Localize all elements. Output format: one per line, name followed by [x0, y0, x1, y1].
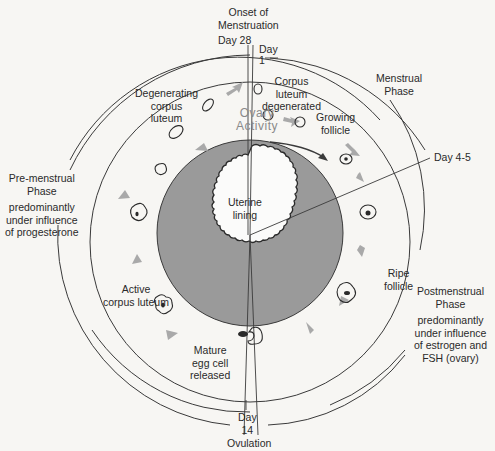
day28-label: Day 28	[218, 34, 251, 47]
ripe-follicle-label: Ripe follicle	[384, 267, 413, 292]
degenerating-glyph-2	[167, 123, 186, 141]
ovary-activity-label: Ovary Activity	[236, 107, 278, 133]
corpus-glyph-upper	[155, 163, 167, 174]
corpus-glyph-left	[131, 203, 148, 220]
arrow-8	[166, 330, 178, 340]
arrow-2	[283, 117, 300, 127]
outer-ring-right	[330, 350, 405, 405]
arrow-1	[226, 82, 243, 96]
day14-label: Day 14	[238, 411, 257, 436]
mature-egg-cell	[238, 331, 248, 337]
degenerating-corpus-luteum-label: Degenerating corpus luteum	[135, 87, 198, 125]
arrow-4	[356, 172, 364, 182]
nucleus-ripe	[344, 291, 350, 295]
premenstrual-phase-label: Pre-menstrual Phase predominantly under …	[5, 172, 79, 239]
degenerating-glyph-1	[200, 97, 215, 113]
menstrual-phase-label: Menstrual Phase	[376, 72, 422, 97]
menstrual-cycle-diagram: Onset of Menstruation Day 28 Day 1 Corpu…	[0, 0, 495, 451]
postmenstrual-right-arc	[268, 355, 405, 425]
corpus-degenerated-glyph	[254, 84, 262, 94]
nucleus-1	[344, 157, 348, 161]
arrow-7	[306, 322, 314, 334]
postmenstrual-phase-label: Postmenstrual Phase predominantly under …	[414, 285, 487, 364]
arrow-5	[357, 245, 365, 257]
nucleus-2	[366, 211, 371, 216]
arrow-9	[132, 254, 142, 264]
onset-of-menstruation-label: Onset of Menstruation	[218, 6, 279, 31]
day4-5-label: Day 4-5	[434, 151, 471, 164]
nucleus-left	[135, 212, 138, 216]
ovulation-label: Ovulation	[227, 437, 271, 450]
growing-follicle-label: Growing follicle	[316, 111, 355, 136]
arrow-10	[118, 190, 130, 199]
mature-egg-released-label: Mature egg cell released	[190, 344, 230, 382]
uterine-lining-label: Uterine lining	[228, 196, 262, 221]
active-corpus-luteum-label: Active corpus luteum	[103, 283, 169, 308]
ruptured-follicle-glyph	[248, 327, 262, 344]
arrow-11	[195, 143, 208, 151]
day1-label: Day 1	[259, 44, 278, 66]
